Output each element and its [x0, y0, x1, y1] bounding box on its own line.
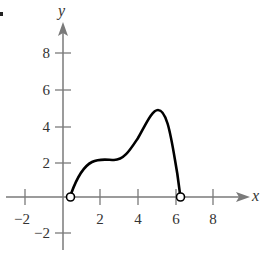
problem-bullet	[0, 12, 3, 16]
x-axis-label: x	[251, 187, 259, 204]
x-axis	[6, 189, 250, 205]
y-tick-label: 8	[43, 45, 51, 61]
y-tick-label: −2	[34, 225, 50, 241]
y-tick-label: 2	[43, 155, 51, 171]
y-tick-label: 4	[43, 119, 51, 135]
y-axis-label: y	[56, 2, 66, 20]
x-tick-label: 2	[96, 211, 104, 227]
y-axis	[55, 22, 71, 250]
open-endpoint-right-icon	[177, 193, 185, 201]
x-tick-label: 8	[209, 211, 217, 227]
x-tick-label: −2	[14, 211, 30, 227]
open-endpoint-left-icon	[67, 193, 75, 201]
function-curve	[71, 110, 180, 194]
function-graph: −2 2 4 6 8 8 6 4 2 −2 x y	[0, 0, 261, 254]
y-tick-label: 6	[43, 82, 51, 98]
x-tick-label: 6	[172, 211, 180, 227]
x-tick-label: 4	[134, 211, 142, 227]
